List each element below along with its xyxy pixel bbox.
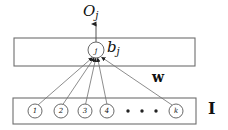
bias-label: bj xyxy=(107,40,120,57)
ellipsis-dot-3 xyxy=(154,109,157,112)
bias-symbol: b xyxy=(107,38,117,56)
output-symbol: O xyxy=(83,2,95,20)
input-node-label-4: 4 xyxy=(100,108,114,115)
weights-label: w xyxy=(152,70,164,84)
bias-subscript: j xyxy=(117,46,120,57)
input-node-label-2: 2 xyxy=(54,108,68,115)
output-layer-box xyxy=(14,38,195,66)
ellipsis-dot-1 xyxy=(126,109,129,112)
ellipsis-dot-2 xyxy=(140,109,143,112)
neuron-node-label: j xyxy=(89,47,103,55)
input-node-label-k: k xyxy=(169,108,183,115)
neuron-diagram-figure: j 1 2 3 4 k Oj bj w I xyxy=(0,0,228,130)
input-node-label-3: 3 xyxy=(78,108,92,115)
input-layer-label: I xyxy=(208,101,215,117)
ellipsis-dots xyxy=(126,109,157,112)
input-node-label-1: 1 xyxy=(28,108,42,115)
output-subscript: j xyxy=(95,10,98,21)
output-label: Oj xyxy=(83,4,98,21)
